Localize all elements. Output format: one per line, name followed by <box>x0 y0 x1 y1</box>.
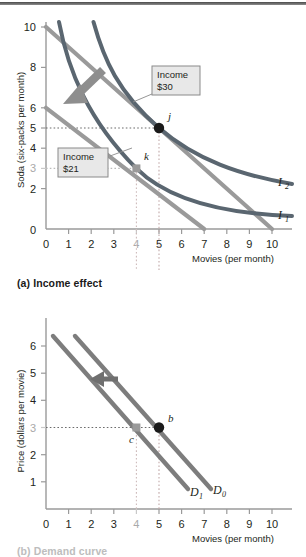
point-k <box>132 164 140 172</box>
point-b-label: b <box>168 412 174 424</box>
x-tick-10: 10 <box>266 518 278 530</box>
curve-label-d0: D 0 <box>212 483 226 499</box>
y-tick-3: 3 <box>30 422 36 434</box>
x-tick-5: 5 <box>156 518 162 530</box>
y-axis-ticks: 10 8 6 5 4 3 2 0 <box>24 21 46 236</box>
panel-a-caption: (a) Income effect <box>17 277 102 289</box>
callout-income-30-line1: Income <box>157 69 188 80</box>
demand-shift-chart: 6 5 4 3 2 1 0 1 2 3 4 5 6 7 8 9 10 <box>0 296 306 546</box>
callout-income-21-line1: Income <box>63 151 94 162</box>
callout-income-30-line2: $30 <box>157 81 173 92</box>
y-tick-6: 6 <box>30 102 36 114</box>
point-b <box>154 422 164 432</box>
x-axis-label: Movies (per month) <box>192 253 274 264</box>
x-tick-8: 8 <box>224 238 230 250</box>
curve-label-i2-sub: 2 <box>285 182 289 191</box>
y-tick-5: 5 <box>30 367 36 379</box>
y-tick-1: 1 <box>30 476 36 488</box>
x-tick-4: 4 <box>133 518 139 530</box>
y-tick-2: 2 <box>30 183 36 195</box>
x-tick-1: 1 <box>66 238 72 250</box>
callout-income-21-line2: $21 <box>63 163 79 174</box>
y-tick-4: 4 <box>30 142 36 154</box>
x-tick-9: 9 <box>246 518 252 530</box>
y-tick-10: 10 <box>24 21 36 33</box>
x-axis-label: Movies (per month) <box>192 533 274 544</box>
curve-label-d1: D 1 <box>189 485 203 501</box>
x-tick-9: 9 <box>246 238 252 250</box>
x-tick-2: 2 <box>88 518 94 530</box>
budget-shift-arrow <box>63 70 103 104</box>
y-tick-3: 3 <box>30 162 36 174</box>
y-tick-4: 4 <box>30 394 36 406</box>
y-tick-5: 5 <box>30 122 36 134</box>
point-c <box>132 424 140 432</box>
y-tick-6: 6 <box>30 340 36 352</box>
panel-b-caption: (b) Demand curve <box>17 545 107 557</box>
curve-label-d1-text: D <box>189 485 199 499</box>
x-tick-0: 0 <box>43 518 49 530</box>
x-tick-7: 7 <box>201 238 207 250</box>
callout-income-30: Income $30 <box>133 66 200 102</box>
y-axis-label: Soda (six-packs per month) <box>15 72 26 188</box>
x-tick-2: 2 <box>88 238 94 250</box>
demand-curve-d0 <box>75 336 211 489</box>
y-axis-ticks: 6 5 4 3 2 1 <box>30 340 46 488</box>
y-tick-0: 0 <box>30 224 36 236</box>
point-c-label: c <box>129 433 134 445</box>
curve-label-i1-sub: 1 <box>285 215 289 224</box>
indifference-curve-i1 <box>59 22 292 216</box>
x-tick-1: 1 <box>66 518 72 530</box>
x-tick-8: 8 <box>224 518 230 530</box>
x-tick-6: 6 <box>179 238 185 250</box>
axes <box>46 22 292 229</box>
x-tick-7: 7 <box>201 518 207 530</box>
y-tick-8: 8 <box>30 61 36 73</box>
x-tick-3: 3 <box>111 238 117 250</box>
income-effect-chart: 10 8 6 5 4 3 2 0 0 1 2 3 4 5 6 7 8 9 10 <box>0 8 306 270</box>
x-axis-ticks: 0 1 2 3 4 5 6 7 8 9 10 <box>43 509 278 530</box>
top-divider-rule <box>0 2 306 5</box>
callout-income-21: Income $21 <box>58 148 132 177</box>
curve-label-d0-text: D <box>212 483 222 497</box>
x-tick-6: 6 <box>179 518 185 530</box>
curve-label-d0-sub: 0 <box>222 490 226 499</box>
panel-income-effect: 10 8 6 5 4 3 2 0 0 1 2 3 4 5 6 7 8 9 10 <box>0 8 306 270</box>
y-tick-2: 2 <box>30 449 36 461</box>
point-j <box>154 123 164 133</box>
point-j-label: j <box>166 110 171 122</box>
curve-label-d1-sub: 1 <box>199 492 203 501</box>
panel-demand-shift: 6 5 4 3 2 1 0 1 2 3 4 5 6 7 8 9 10 <box>0 296 306 546</box>
point-k-label: k <box>144 150 150 162</box>
x-tick-3: 3 <box>111 518 117 530</box>
x-tick-0: 0 <box>43 238 49 250</box>
y-axis-label: Price (dollars per movie) <box>15 370 26 473</box>
x-axis-ticks: 0 1 2 3 4 5 6 7 8 9 10 <box>43 229 278 250</box>
x-tick-10: 10 <box>266 238 278 250</box>
